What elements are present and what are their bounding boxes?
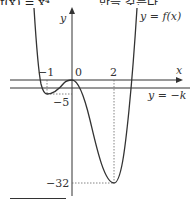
y-axis-arrow-icon (69, 7, 75, 14)
tick-label-x-minus1: −1 (38, 66, 54, 79)
y-axis-label: y (59, 12, 67, 25)
origin-label: 0 (75, 66, 82, 79)
tick-label-y-minus32: −32 (46, 177, 69, 190)
tick-label-y-minus5: −5 (53, 96, 69, 109)
curve-f (34, 8, 137, 183)
line-label: y = −k (147, 89, 187, 102)
x-axis-arrow-icon (176, 77, 183, 83)
curve-label: y = f(x) (139, 10, 181, 23)
footnote-rule (10, 198, 66, 199)
tick-label-x-2: 2 (110, 66, 117, 79)
x-axis-label: x (176, 64, 183, 77)
function-graph: y y = f(x) x −1 0 2 −5 −32 y = −k (0, 0, 195, 204)
